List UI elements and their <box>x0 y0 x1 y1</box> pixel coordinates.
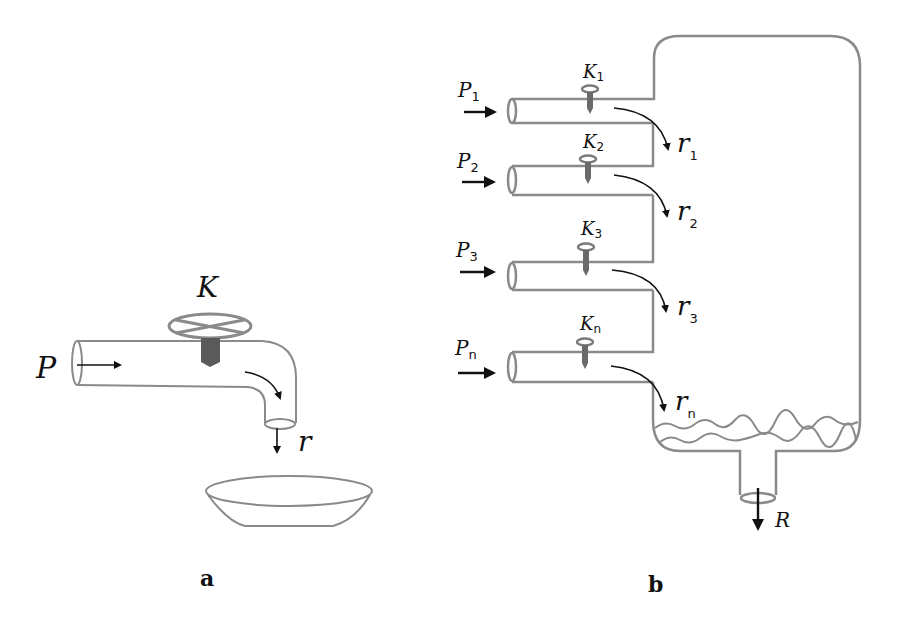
valve-k3-icon <box>578 244 594 277</box>
caption-b: b <box>648 571 663 597</box>
label-k2: K2 <box>582 131 604 154</box>
label-k1: K1 <box>582 61 604 84</box>
label-p1: P1 <box>457 78 480 104</box>
label-p3: P3 <box>455 238 478 264</box>
label-outlet-r: R <box>774 508 790 532</box>
valve-stem-icon <box>201 338 220 367</box>
valve-kn-icon <box>577 339 593 370</box>
label-r3: r3 <box>677 291 698 326</box>
label-k3: K3 <box>580 218 602 241</box>
label-r2: r2 <box>677 196 698 231</box>
label-kn: Kn <box>579 313 601 336</box>
collection-bowl <box>206 476 372 526</box>
flow-rn-arrow <box>611 366 664 410</box>
panel-b-tank-system: P1 P2 P3 Pn K1 K2 K3 Kn r1 r2 r3 rn R b <box>454 36 860 597</box>
pressure-label: P <box>35 350 57 385</box>
flow-r1-arrow <box>614 108 668 149</box>
flow-label: r <box>298 425 313 458</box>
valve-label: K <box>196 271 220 304</box>
inlet-2-opening <box>508 167 516 193</box>
label-pn: Pn <box>454 336 477 362</box>
faucet-pipe <box>72 341 296 429</box>
inlet-3-opening <box>508 263 516 289</box>
label-r1: r1 <box>677 128 698 163</box>
inlet-n-opening <box>508 353 516 381</box>
label-p2: P2 <box>456 149 479 175</box>
diagram-canvas: K P r a <box>0 0 898 624</box>
label-rn: rn <box>675 386 696 421</box>
valve-k2-icon <box>580 156 596 185</box>
panel-a-faucet: K P r a <box>35 271 372 591</box>
valve-handwheel-icon <box>169 314 251 338</box>
caption-a: a <box>200 565 214 591</box>
inlet-1-opening <box>508 99 516 123</box>
